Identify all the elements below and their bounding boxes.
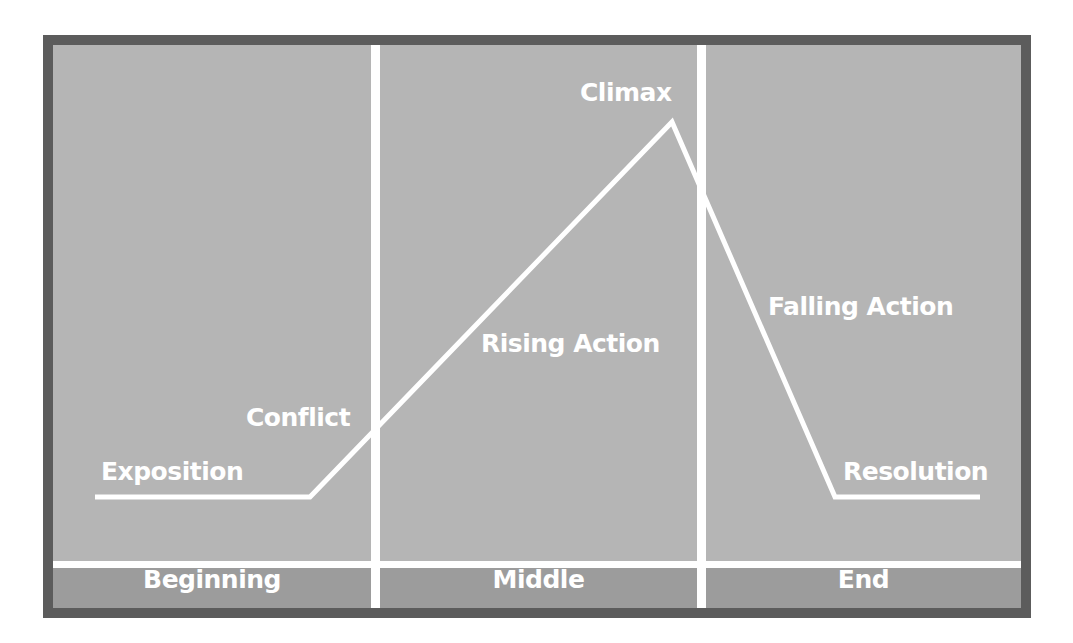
label-falling-action: Falling Action xyxy=(768,294,953,319)
label-rising-action: Rising Action xyxy=(481,331,660,356)
section-beginning: Beginning xyxy=(53,567,371,592)
label-conflict: Conflict xyxy=(246,405,350,430)
label-exposition: Exposition xyxy=(101,459,243,484)
section-end: End xyxy=(706,567,1021,592)
plot-line xyxy=(0,0,1073,643)
section-middle: Middle xyxy=(380,567,697,592)
label-climax: Climax xyxy=(580,80,672,105)
label-resolution: Resolution xyxy=(843,459,988,484)
